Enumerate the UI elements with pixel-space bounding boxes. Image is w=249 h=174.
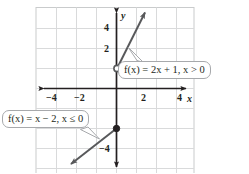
callout-function-nonpositive-branch: f(x) = x − 2, x ≤ 0 bbox=[2, 110, 89, 128]
grid-lines bbox=[36, 8, 194, 174]
y-axis-label: y bbox=[121, 11, 125, 21]
y-tick-label-neg4: −4 bbox=[99, 144, 110, 154]
x-axis-label: x bbox=[187, 94, 192, 104]
piecewise-function-figure: −4 −2 2 4 x 4 2 −4 y f(x) = 2x + 1, x > … bbox=[0, 0, 249, 173]
x-tick-label-2: 2 bbox=[141, 93, 146, 103]
x-tick-label-4: 4 bbox=[177, 93, 182, 103]
x-tick-label-neg2: −2 bbox=[74, 93, 85, 103]
callout-lower-text: f(x) = x − 2, x ≤ 0 bbox=[8, 113, 83, 124]
y-tick-label-2: 2 bbox=[104, 44, 109, 54]
closed-endpoint-marker bbox=[113, 125, 119, 131]
callout-upper-text: f(x) = 2x + 1, x > 0 bbox=[124, 64, 205, 75]
y-tick-label-4: 4 bbox=[104, 23, 109, 33]
coordinate-plane bbox=[0, 0, 249, 173]
callout-function-positive-branch: f(x) = 2x + 1, x > 0 bbox=[118, 61, 211, 79]
x-tick-label-neg4: −4 bbox=[46, 93, 57, 103]
